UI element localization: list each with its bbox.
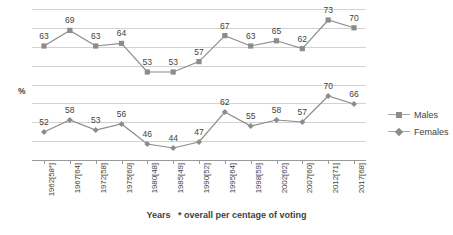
x-axis-category-label: 1995[64] [228, 163, 237, 193]
data-label: 44 [162, 134, 184, 143]
data-label: 70 [317, 82, 339, 91]
x-axis-title-note: * overall per centage of voting [178, 210, 307, 220]
data-label: 57 [291, 108, 313, 117]
legend-item-females[interactable]: Females [388, 123, 449, 140]
diamond-marker-icon [170, 145, 176, 151]
legend-item-males[interactable]: Males [388, 106, 449, 123]
diamond-marker-icon [248, 123, 254, 129]
legend-label: Females [414, 127, 449, 137]
x-axis-title: Years * overall per centage of voting [0, 210, 453, 220]
square-marker-icon [388, 110, 410, 119]
x-axis-category-label: 2012[71] [331, 163, 340, 193]
x-axis-category-label: 1990[52] [202, 163, 211, 193]
chart-legend: MalesFemales [388, 106, 449, 140]
data-label: 66 [343, 90, 365, 99]
x-axis-category-label: 1967[64] [73, 163, 82, 193]
x-axis-category-label: 1985[49] [176, 163, 185, 193]
x-axis-category-label: 2017[68] [357, 163, 366, 193]
data-label: 47 [188, 128, 210, 137]
data-label: 62 [214, 98, 236, 107]
diamond-marker-icon [41, 129, 47, 135]
data-label: 52 [33, 118, 55, 127]
data-label: 46 [136, 130, 158, 139]
legend-label: Males [414, 110, 438, 120]
diamond-marker-icon [351, 101, 357, 107]
diamond-marker-icon [93, 127, 99, 133]
diamond-marker-icon [67, 117, 73, 123]
data-label: 58 [266, 106, 288, 115]
data-label: 55 [240, 112, 262, 121]
data-label: 56 [111, 110, 133, 119]
x-axis-category-label: 1962[58*] [47, 163, 56, 196]
x-axis-category-label: 2002[62] [280, 163, 289, 193]
x-axis-category-label: 1975[60] [125, 163, 134, 193]
diamond-marker-icon [274, 117, 280, 123]
x-axis-category-labels: 1962[58*]1967[64]1972[58]1975[60]1980[48… [32, 0, 366, 75]
data-label: 53 [85, 116, 107, 125]
x-axis-title-main: Years [146, 210, 170, 220]
voter-turnout-line-chart: 6369636453535767636562737052585356464447… [0, 0, 453, 235]
y-axis-label: % [18, 86, 26, 96]
x-axis-category-label: 1972[58] [99, 163, 108, 193]
diamond-marker-icon [388, 127, 410, 136]
x-axis-category-label: 2007[60] [305, 163, 314, 193]
x-axis-category-label: 1980[48] [150, 163, 159, 193]
data-label: 58 [59, 106, 81, 115]
x-axis-category-label: 1998[59] [254, 163, 263, 193]
